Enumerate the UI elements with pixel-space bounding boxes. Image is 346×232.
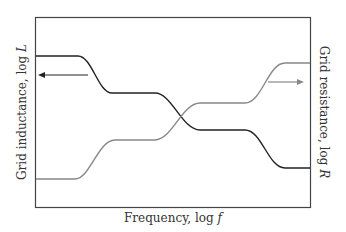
x-axis-label: Frequency, log f: [124, 211, 225, 225]
y-axis-right-label: Grid resistance, log R: [317, 46, 331, 178]
y-axis-left-label: Grid inductance, log L: [15, 44, 29, 180]
resistance-curve: [36, 63, 310, 179]
inductance-curve: [36, 56, 310, 168]
right-axis-arrow-icon: [268, 79, 304, 85]
left-axis-arrow-icon: [38, 72, 88, 78]
plot-figure: Frequency, log f Grid inductance, log L …: [0, 0, 346, 232]
